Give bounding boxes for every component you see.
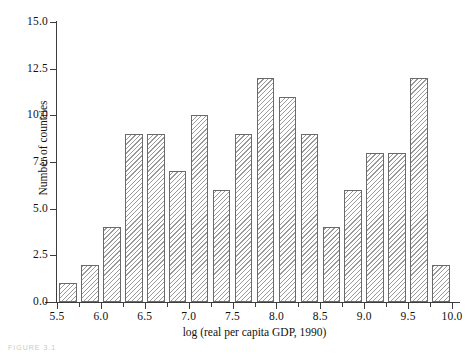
x-tick-mark-minor	[211, 303, 212, 307]
histogram-bar	[191, 115, 209, 302]
histogram-bar	[169, 171, 187, 302]
y-tick-mark	[50, 115, 56, 116]
x-tick-mark	[364, 303, 365, 309]
x-tick-mark	[145, 303, 146, 309]
x-tick-mark	[276, 303, 277, 309]
y-tick-label: 7.5	[0, 156, 48, 168]
histogram-bar	[235, 134, 253, 302]
histogram-bar	[366, 153, 384, 302]
y-tick-mark	[50, 69, 56, 70]
y-tick-label: 0.0	[0, 296, 48, 308]
x-tick-mark-minor	[79, 303, 80, 307]
histogram-bar	[432, 265, 450, 302]
x-tick-label: 9.0	[344, 310, 384, 322]
histogram-bar	[323, 227, 341, 302]
y-tick-mark	[50, 209, 56, 210]
x-tick-label: 8.5	[300, 310, 340, 322]
histogram-bar	[388, 153, 406, 302]
x-tick-label: 7.0	[169, 310, 209, 322]
y-tick-label-text: 12.5	[2, 63, 48, 75]
y-tick-label-text: 2.5	[2, 249, 48, 261]
x-tick-mark-minor	[342, 303, 343, 307]
histogram-bar	[344, 190, 362, 302]
histogram-bar	[147, 134, 165, 302]
x-tick-mark	[101, 303, 102, 309]
histogram-bar	[59, 283, 77, 302]
x-tick-mark-minor	[123, 303, 124, 307]
plot-area	[57, 22, 452, 302]
histogram-bar	[301, 134, 319, 302]
histogram-bar	[410, 78, 428, 302]
y-tick-mark	[50, 255, 56, 256]
x-tick-mark	[452, 303, 453, 309]
histogram-bar	[103, 227, 121, 302]
x-tick-mark-minor	[167, 303, 168, 307]
x-tick-label: 5.5	[37, 310, 77, 322]
y-tick-mark	[50, 22, 56, 23]
x-tick-mark-minor	[386, 303, 387, 307]
figure-histogram: Number of countries 0.02.55.07.510.012.5…	[0, 0, 467, 355]
x-tick-mark	[320, 303, 321, 309]
x-tick-label: 10.0	[432, 310, 467, 322]
x-tick-label: 7.5	[213, 310, 253, 322]
x-axis-title: log (real per capita GDP, 1990)	[57, 326, 452, 338]
x-tick-mark	[189, 303, 190, 309]
x-axis-line	[45, 302, 460, 303]
y-tick-label-text: 15.0	[2, 16, 48, 28]
figure-caption: FIGURE 3.1	[8, 344, 56, 351]
y-tick-label: 5.0	[0, 203, 48, 215]
y-tick-label-text: 10.0	[2, 109, 48, 121]
y-tick-label: 2.5	[0, 249, 48, 261]
y-tick-label-text: 5.0	[2, 203, 48, 215]
x-tick-label: 6.5	[125, 310, 165, 322]
y-tick-label: 10.0	[0, 109, 48, 121]
x-tick-mark-minor	[430, 303, 431, 307]
y-axis-title: Number of countries	[37, 48, 49, 248]
x-tick-label: 6.0	[81, 310, 121, 322]
y-tick-mark	[50, 162, 56, 163]
histogram-bar	[125, 134, 143, 302]
x-tick-label: 8.0	[256, 310, 296, 322]
y-tick-label-text: 0.0	[2, 296, 48, 308]
histogram-bar	[213, 190, 231, 302]
y-tick-mark	[50, 302, 56, 303]
x-tick-label: 9.5	[388, 310, 428, 322]
x-tick-mark	[233, 303, 234, 309]
histogram-bar	[81, 265, 99, 302]
y-tick-label: 12.5	[0, 63, 48, 75]
x-tick-mark	[408, 303, 409, 309]
histogram-bar	[279, 97, 297, 302]
y-tick-label: 15.0	[0, 16, 48, 28]
x-tick-mark-minor	[255, 303, 256, 307]
y-tick-label-text: 7.5	[2, 156, 48, 168]
x-tick-mark-minor	[298, 303, 299, 307]
histogram-bar	[257, 78, 275, 302]
x-tick-mark	[57, 303, 58, 309]
